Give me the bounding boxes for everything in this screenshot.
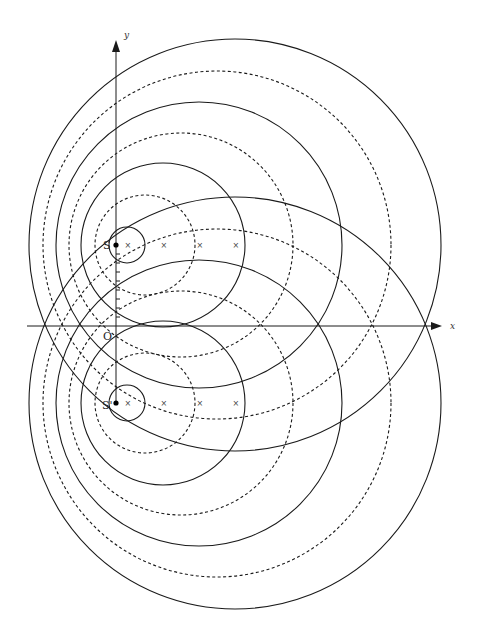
center-marker-icon: × xyxy=(233,241,240,250)
x-axis-arrow-icon xyxy=(431,322,442,330)
center-marker-icon: × xyxy=(125,241,132,250)
wavefront-diagram: x y O S S' ×××××××× xyxy=(0,0,480,636)
source-s-prime-dot xyxy=(113,400,118,405)
center-marker-icon: × xyxy=(197,399,204,408)
source-s-prime-label: S' xyxy=(102,399,113,412)
center-marker-icon: × xyxy=(197,241,204,250)
center-marker-icon: × xyxy=(161,241,168,250)
source-s-label: S xyxy=(103,239,111,252)
center-marker-icon: × xyxy=(233,399,240,408)
source-s-dot xyxy=(113,242,118,247)
y-axis-label: y xyxy=(123,30,130,40)
center-marker-icon: × xyxy=(125,399,132,408)
wavefront-circles xyxy=(29,39,441,609)
center-marker-icon: × xyxy=(161,399,168,408)
y-axis-arrow-icon xyxy=(112,40,120,52)
x-axis-label: x xyxy=(450,321,455,331)
origin-label: O xyxy=(103,330,112,343)
